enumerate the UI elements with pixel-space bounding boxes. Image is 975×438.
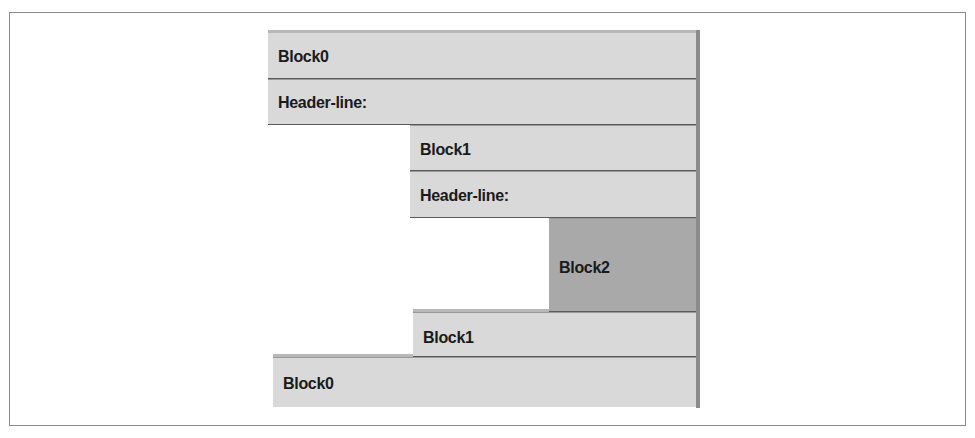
step-bevel [273, 354, 413, 357]
block2-label: Block2 [559, 259, 610, 277]
header-line-0-label: Header-line: [278, 94, 367, 112]
block1-bottom-label: Block1 [423, 329, 474, 347]
block2-row: Block2 [549, 218, 696, 311]
separator-line [410, 217, 696, 218]
block0-bottom-label: Block0 [283, 375, 334, 393]
header-line-0-row: Header-line: [268, 79, 696, 125]
right-bevel [696, 30, 700, 408]
block1-top-row: Block1 [410, 125, 696, 171]
block1-bottom-row: Block1 [413, 312, 696, 357]
block1-top-label: Block1 [420, 141, 471, 159]
separator-line [268, 78, 696, 79]
block0-bottom-row: Block0 [273, 357, 696, 407]
separator-line [410, 170, 696, 171]
step-bevel [413, 309, 549, 312]
step-bevel [268, 30, 696, 33]
block0-top-row: Block0 [268, 32, 696, 79]
separator-line [268, 124, 696, 125]
block0-top-label: Block0 [278, 48, 329, 66]
header-line-1-row: Header-line: [410, 171, 696, 218]
header-line-1-label: Header-line: [420, 187, 509, 205]
